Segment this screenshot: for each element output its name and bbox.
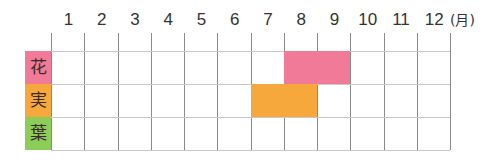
month-label: 10 (351, 10, 384, 30)
month-label: 3 (119, 10, 152, 30)
month-label: 11 (385, 10, 418, 30)
month-unit-label: (月) (450, 10, 475, 30)
row-label: 花 (25, 51, 51, 84)
grid-horizontal-line (51, 117, 450, 118)
grid-vertical-line (450, 33, 451, 150)
month-label: 8 (285, 10, 318, 30)
month-label: 9 (318, 10, 351, 30)
active-month-cell (251, 84, 284, 117)
active-month-cell (284, 51, 317, 84)
month-label: 6 (218, 10, 251, 30)
row-label: 実 (25, 84, 51, 117)
month-label: 12 (418, 10, 451, 30)
month-label: 2 (85, 10, 118, 30)
grid-horizontal-line (51, 51, 450, 52)
month-label: 4 (152, 10, 185, 30)
grid-horizontal-line (51, 150, 450, 151)
month-label: 1 (52, 10, 85, 30)
month-label: 5 (185, 10, 218, 30)
row-label: 葉 (25, 117, 51, 150)
month-label: 7 (252, 10, 285, 30)
active-month-cell (317, 51, 350, 84)
active-month-cell (284, 84, 317, 117)
